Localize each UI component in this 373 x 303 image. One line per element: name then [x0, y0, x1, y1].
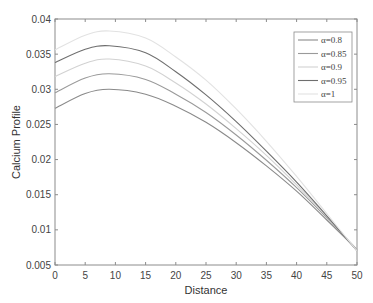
legend-label: α=0.85	[321, 49, 347, 59]
line-chart: 0.0050.010.0150.020.0250.030.0350.04 051…	[0, 0, 373, 303]
x-tick-label: 10	[110, 270, 122, 281]
legend-label: α=0.9	[321, 62, 343, 72]
y-tick-label: 0.03	[32, 84, 52, 95]
x-tick-label: 20	[170, 270, 182, 281]
y-axis-label: Calcium Profile	[10, 105, 22, 179]
y-tick-label: 0.02	[32, 154, 52, 165]
legend-label: α=0.95	[321, 76, 347, 86]
x-tick-label: 45	[321, 270, 333, 281]
y-tick-label: 0.025	[26, 119, 51, 130]
x-axis-label: Distance	[185, 284, 228, 296]
y-tick-label: 0.005	[26, 260, 51, 271]
legend: α=0.8α=0.85α=0.9α=0.95α=1	[294, 32, 352, 102]
x-tick-label: 25	[200, 270, 212, 281]
y-tick-label: 0.01	[32, 224, 52, 235]
x-tick-label: 5	[82, 270, 88, 281]
x-tick-label: 50	[351, 270, 363, 281]
x-tick-label: 40	[291, 270, 303, 281]
legend-label: α=0.8	[321, 35, 343, 45]
x-tick-label: 30	[231, 270, 243, 281]
y-tick-label: 0.035	[26, 49, 51, 60]
x-tick-label: 35	[261, 270, 273, 281]
legend-label: α=1	[321, 89, 335, 99]
x-tick-label: 15	[140, 270, 152, 281]
y-tick-label: 0.04	[32, 14, 52, 25]
x-tick-label: 0	[52, 270, 58, 281]
y-tick-label: 0.015	[26, 189, 51, 200]
